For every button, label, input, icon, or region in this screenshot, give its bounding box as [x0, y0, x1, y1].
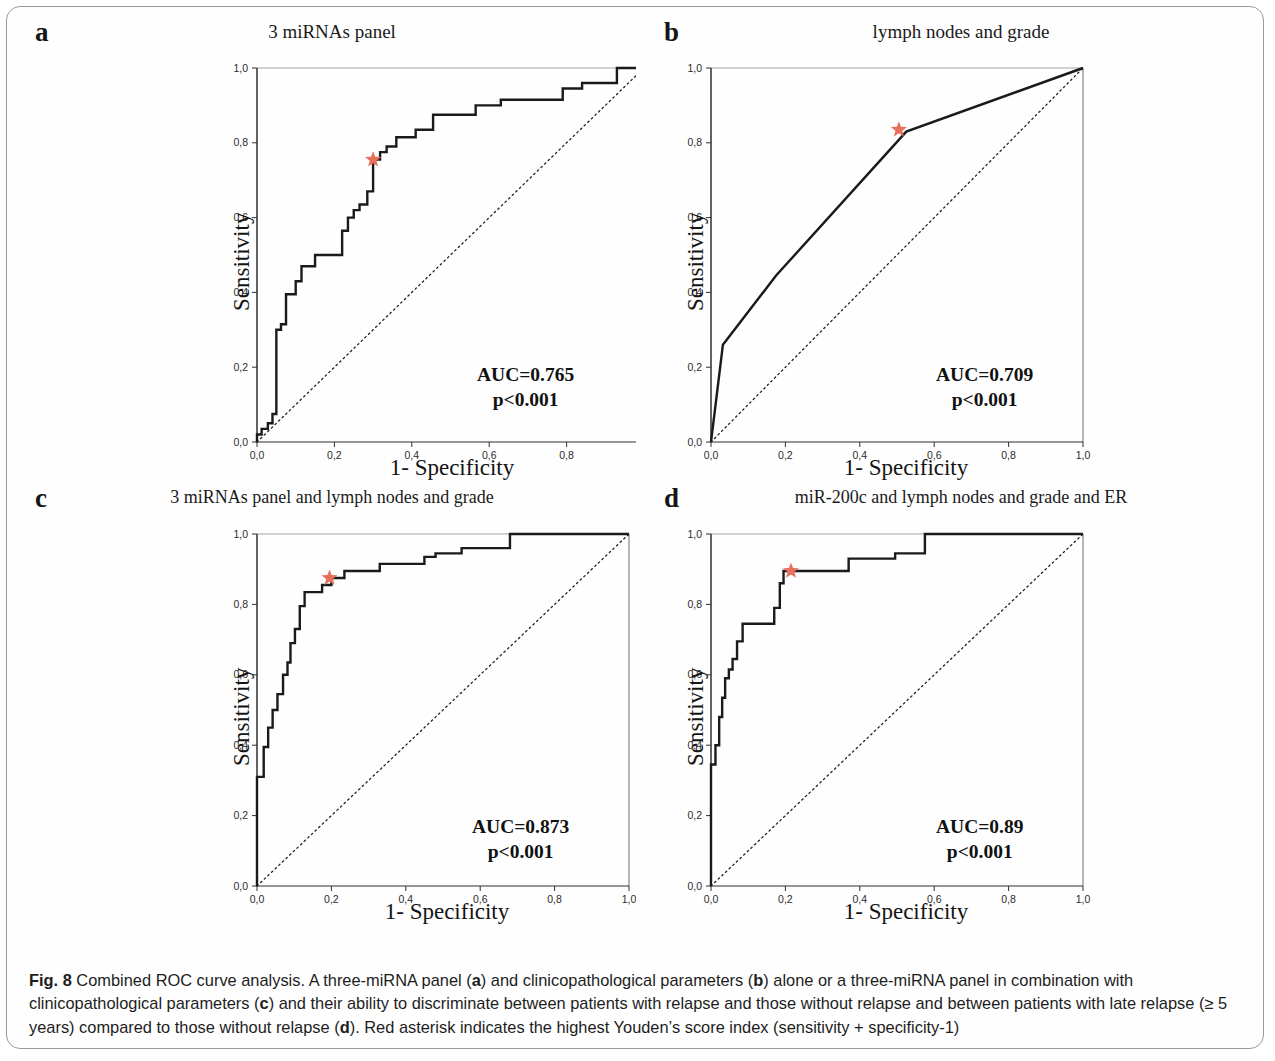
auc-value-label: AUC=0.765 — [477, 363, 574, 388]
reference-diagonal-line — [257, 534, 629, 886]
x-axis-label-b: 1- Specificity — [766, 455, 1046, 481]
x-tick-label: 1,0 — [1076, 449, 1091, 461]
roc-panel-a: a3 miRNAs panel0,00,00,20,20,40,40,60,60… — [7, 11, 636, 481]
y-tick-label: 0,8 — [687, 598, 702, 610]
x-tick-label: 1,0 — [1076, 893, 1091, 905]
y-tick-label: 1,0 — [233, 528, 248, 540]
p-value-label: p<0.001 — [936, 388, 1033, 413]
y-tick-label: 0,8 — [233, 136, 248, 148]
y-tick-label: 0,0 — [687, 436, 702, 448]
figure-caption: Fig. 8 Combined ROC curve analysis. A th… — [29, 969, 1257, 1039]
p-value-label: p<0.001 — [477, 388, 574, 413]
roc-panel-grid: a3 miRNAs panel0,00,00,20,20,40,40,60,60… — [7, 7, 1265, 937]
roc-plot-c: 0,00,00,20,20,40,40,60,60,80,81,01,0 — [7, 481, 636, 951]
p-value-label: p<0.001 — [936, 840, 1023, 865]
y-tick-label: 0,2 — [233, 809, 248, 821]
y-tick-label: 1,0 — [233, 62, 248, 74]
y-axis-label-c: Sensitivity — [229, 668, 255, 766]
p-value-label: p<0.001 — [472, 840, 569, 865]
y-tick-label: 0,2 — [687, 809, 702, 821]
x-tick-label: 1,0 — [622, 893, 636, 905]
x-tick-label: 0,0 — [704, 893, 719, 905]
y-tick-label: 1,0 — [687, 62, 702, 74]
caption-ref-c: c — [260, 994, 269, 1012]
caption-figure-number: Fig. 8 — [29, 971, 72, 989]
y-tick-label: 0,0 — [233, 880, 248, 892]
x-tick-label: 0,0 — [250, 893, 265, 905]
figure-frame: a3 miRNAs panel0,00,00,20,20,40,40,60,60… — [6, 6, 1264, 1049]
caption-ref-b: b — [753, 971, 763, 989]
roc-panel-b: blymph nodes and grade0,00,00,20,20,40,4… — [636, 11, 1265, 481]
auc-value-label: AUC=0.89 — [936, 815, 1023, 840]
auc-annotation-b: AUC=0.709p<0.001 — [936, 363, 1033, 413]
y-tick-label: 0,2 — [233, 361, 248, 373]
y-tick-label: 0,8 — [233, 598, 248, 610]
reference-diagonal-line — [711, 534, 1083, 886]
caption-text-segment: ). Red asterisk indicates the highest Yo… — [350, 1018, 960, 1036]
caption-ref-a: a — [472, 971, 481, 989]
x-axis-label-a: 1- Specificity — [312, 455, 592, 481]
auc-annotation-d: AUC=0.89p<0.001 — [936, 815, 1023, 865]
y-axis-label-a: Sensitivity — [229, 213, 255, 311]
x-axis-label-c: 1- Specificity — [307, 899, 587, 925]
y-tick-label: 0,8 — [687, 136, 702, 148]
caption-ref-d: d — [340, 1018, 350, 1036]
x-tick-label: 0,0 — [704, 449, 719, 461]
y-tick-label: 0,0 — [687, 880, 702, 892]
roc-plot-d: 0,00,00,20,20,40,40,60,60,80,81,01,0 — [636, 481, 1265, 951]
youden-asterisk-marker — [321, 570, 337, 585]
auc-value-label: AUC=0.873 — [472, 815, 569, 840]
roc-panel-c: c3 miRNAs panel and lymph nodes and grad… — [7, 481, 636, 951]
youden-asterisk-marker — [783, 562, 799, 577]
auc-annotation-a: AUC=0.765p<0.001 — [477, 363, 574, 413]
auc-annotation-c: AUC=0.873p<0.001 — [472, 815, 569, 865]
y-tick-label: 0,0 — [233, 436, 248, 448]
x-axis-label-d: 1- Specificity — [766, 899, 1046, 925]
roc-curve-line — [257, 68, 636, 442]
y-tick-label: 1,0 — [687, 528, 702, 540]
y-tick-label: 0,2 — [687, 361, 702, 373]
y-axis-label-b: Sensitivity — [683, 213, 709, 311]
auc-value-label: AUC=0.709 — [936, 363, 1033, 388]
roc-panel-d: dmiR-200c and lymph nodes and grade and … — [636, 481, 1265, 951]
caption-text-segment: Combined ROC curve analysis. A three-miR… — [72, 971, 472, 989]
y-axis-label-d: Sensitivity — [683, 668, 709, 766]
x-tick-label: 0,0 — [250, 449, 265, 461]
caption-text-segment: ) and clinicopathological parameters ( — [481, 971, 753, 989]
